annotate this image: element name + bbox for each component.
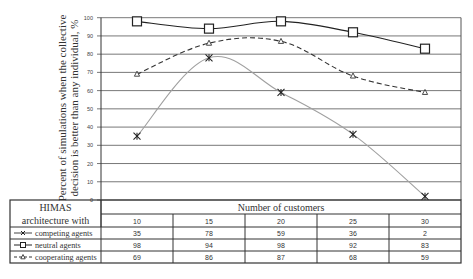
y-tick-label: 10 (87, 179, 93, 185)
square-marker (133, 17, 142, 26)
x-star-marker (134, 133, 141, 140)
x-category-label: 20 (277, 218, 285, 225)
gridlines (97, 18, 461, 200)
y-tick-label: 50 (87, 106, 93, 112)
triangle-marker (350, 73, 355, 78)
square-marker (421, 44, 430, 53)
y-tick-label: 20 (87, 161, 93, 167)
table-cell: 69 (133, 254, 141, 261)
y-tick-label: 70 (87, 69, 93, 75)
data-table: HIMASarchitecture withNumber of customer… (10, 200, 461, 263)
y-axis-label: Percent of simulations when the collecti… (56, 15, 80, 202)
square-marker (349, 28, 358, 37)
plot-frame (101, 18, 461, 227)
table-cell: 59 (421, 254, 429, 261)
triangle-marker (278, 38, 283, 43)
legend-key (14, 255, 32, 259)
legend-label: cooperating agents (35, 253, 97, 262)
square-marker (205, 24, 214, 33)
table-cell: 98 (133, 242, 141, 249)
legend-label: competing agents (35, 229, 93, 238)
table-cell: 2 (423, 230, 427, 237)
x-category-label: 10 (133, 218, 141, 225)
x-category-label: 30 (421, 218, 429, 225)
y-axis-ticks: 0102030405060708090100 (84, 15, 93, 203)
chart: 0102030405060708090100 Percent of simula… (0, 0, 473, 279)
table-header-label: architecture with (22, 215, 89, 226)
x-category-label: 25 (349, 218, 357, 225)
table-cell: 68 (349, 254, 357, 261)
legend-key (14, 243, 32, 248)
y-tick-label: 40 (87, 124, 93, 130)
table-cell: 87 (277, 254, 285, 261)
y-axis-label-line: decision is better than any individual, … (68, 20, 80, 197)
series-cooperating-agents (134, 38, 427, 95)
legend-key (14, 231, 32, 235)
series-neutral-agents (133, 17, 430, 53)
table-cell: 86 (205, 254, 213, 261)
x-category-label: 15 (205, 218, 213, 225)
square-marker (277, 17, 286, 26)
triangle-marker (422, 89, 427, 94)
y-axis-label-line: Percent of simulations when the collecti… (56, 15, 68, 202)
table-cell: 94 (205, 242, 213, 249)
x-axis-title: Number of customers (238, 202, 325, 213)
table-cell: 59 (277, 230, 285, 237)
y-tick-label: 90 (87, 33, 93, 39)
y-tick-label: 100 (84, 15, 93, 21)
table-cell: 35 (133, 230, 141, 237)
x-star-marker (350, 131, 357, 138)
y-tick-label: 60 (87, 88, 93, 94)
series-lines (133, 17, 430, 200)
legend-label: neutral agents (35, 241, 81, 250)
table-cell: 98 (277, 242, 285, 249)
table-cell: 36 (349, 230, 357, 237)
table-cell: 92 (349, 242, 357, 249)
x-star-marker (422, 193, 429, 200)
x-star-marker (278, 89, 285, 96)
table-header-label: HIMAS (39, 202, 71, 213)
x-star-marker (206, 54, 213, 61)
table-cell: 83 (421, 242, 429, 249)
y-tick-label: 80 (87, 51, 93, 57)
table-cell: 78 (205, 230, 213, 237)
y-tick-label: 30 (87, 142, 93, 148)
